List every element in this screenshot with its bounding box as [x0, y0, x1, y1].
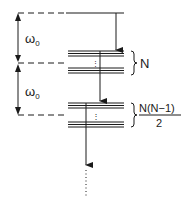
omega-0-label-lower: ω0	[25, 84, 40, 101]
band-2-degeneracy-denominator: 2	[156, 117, 162, 129]
band-2-degeneracy-numerator: N(N−1)	[139, 102, 175, 114]
band-n-ellipsis: ⋮	[92, 60, 99, 67]
energy-level-diagram: ⋮ N ⋮ N(N−1) 2 ω0 ω0	[0, 0, 189, 208]
spacing-arrow-lower	[15, 64, 21, 115]
band-n: ⋮ N	[18, 51, 149, 75]
band-n-degeneracy-label: N	[140, 56, 149, 71]
spacing-arrow-upper	[15, 13, 21, 62]
band-n-brace	[131, 51, 137, 75]
band-2-brace	[131, 103, 137, 127]
band-n-n-minus-1-over-2: ⋮ N(N−1) 2	[18, 102, 181, 129]
band-2-ellipsis: ⋮	[92, 112, 100, 121]
omega-0-label-upper: ω0	[25, 31, 40, 48]
